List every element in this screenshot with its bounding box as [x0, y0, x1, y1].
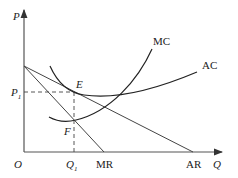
ar-label: AR — [186, 158, 202, 170]
y-axis-label: P — [12, 10, 20, 22]
mr-curve — [24, 66, 104, 152]
monopoly-cost-revenue-diagram: P Q O MC AC AR MR E F P1 Q1 — [0, 0, 238, 178]
mr-label: MR — [96, 158, 114, 170]
point-f-label: F — [63, 125, 71, 137]
ac-label: AC — [202, 59, 217, 71]
mc-label: MC — [153, 35, 170, 47]
point-e-label: E — [75, 78, 83, 90]
mc-curve — [49, 49, 152, 121]
q1-label: Q1 — [66, 158, 77, 173]
diagram-canvas: P Q O MC AC AR MR E F P1 Q1 — [0, 0, 238, 178]
origin-label: O — [14, 158, 22, 170]
p1-label: P1 — [10, 86, 21, 101]
x-axis-label: Q — [213, 158, 221, 170]
ar-curve — [24, 66, 193, 152]
